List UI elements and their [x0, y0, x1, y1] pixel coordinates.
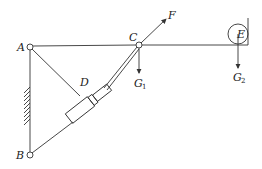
mechanism-diagram: A B C D E F G 1 G 2 — [0, 0, 262, 169]
label-d: D — [79, 76, 89, 89]
label-c: C — [129, 31, 138, 44]
label-e: E — [236, 28, 245, 41]
link-ad — [32, 49, 80, 96]
pivot-a — [27, 44, 33, 50]
pivot-b — [27, 152, 33, 158]
piston-rod — [104, 47, 137, 88]
label-b: B — [15, 149, 24, 162]
label-a: A — [16, 41, 25, 54]
wall-hatching — [24, 87, 30, 125]
label-g2-sub: 2 — [241, 77, 245, 85]
label-f: F — [167, 9, 176, 22]
force-f-arrow — [141, 19, 166, 43]
label-g1-sub: 1 — [142, 83, 146, 91]
beam-ac — [33, 45, 136, 46]
link-b-cylinder — [32, 122, 73, 153]
